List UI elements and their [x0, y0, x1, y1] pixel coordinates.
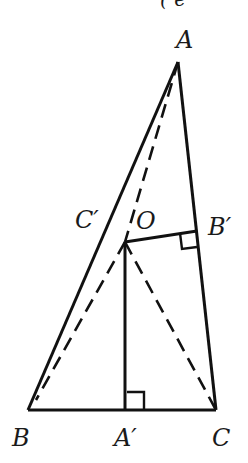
label-o: O [136, 207, 156, 235]
right-angle-a-prime [127, 392, 144, 410]
dashed-ob [36, 242, 125, 400]
geometry-diagram: ( e A B C A′ B′ C′ O [0, 0, 248, 463]
label-b-prime: B′ [207, 213, 232, 241]
label-a: A [174, 26, 193, 54]
label-a-prime: A′ [112, 424, 137, 452]
cropped-top-text: ( e [160, 0, 186, 11]
label-b: B [11, 424, 30, 452]
label-c: C [212, 424, 230, 452]
dashed-oc [125, 242, 216, 410]
right-angle-b-prime [180, 233, 197, 249]
label-c-prime: C′ [75, 206, 99, 234]
